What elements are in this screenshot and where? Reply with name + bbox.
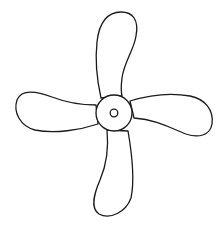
propeller-axle-hole (110, 109, 118, 117)
propeller-blade-bottom (94, 130, 133, 216)
propeller-drawing (0, 0, 224, 230)
propeller-blade-top (96, 12, 137, 98)
propeller-blade-left (16, 92, 98, 131)
propeller-blade-right (130, 94, 212, 136)
